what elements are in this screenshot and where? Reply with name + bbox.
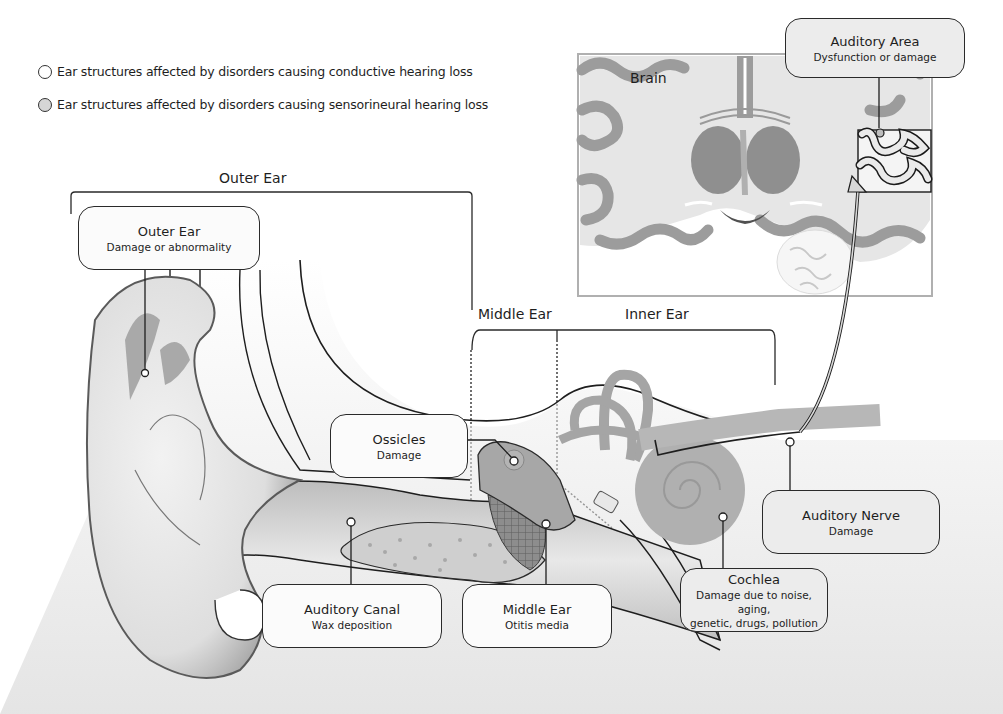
section-label-inner-ear: Inner Ear — [625, 306, 689, 322]
callout-title: Auditory Nerve — [802, 507, 900, 524]
callout-title: Auditory Area — [830, 33, 919, 50]
legend-item-sensorineural: Ear structures affected by disorders cau… — [38, 97, 488, 112]
section-label-middle-ear: Middle Ear — [478, 306, 552, 322]
callout-middle-ear: Middle Ear Otitis media — [462, 584, 612, 648]
callout-auditory-area: Auditory Area Dysfunction or damage — [785, 18, 965, 78]
brain-label: Brain — [630, 70, 667, 86]
callout-auditory-nerve: Auditory Nerve Damage — [762, 490, 940, 554]
legend-label-conductive: Ear structures affected by disorders cau… — [57, 64, 473, 79]
callout-title: Outer Ear — [138, 223, 201, 240]
callout-subtitle-line2: genetic, drugs, pollution — [690, 616, 818, 630]
conductive-swatch-icon — [38, 65, 52, 79]
callout-ossicles: Ossicles Damage — [330, 414, 468, 478]
callout-subtitle-line1: Damage due to noise, aging, — [681, 588, 827, 616]
callout-title: Auditory Canal — [304, 601, 400, 618]
legend-item-conductive: Ear structures affected by disorders cau… — [38, 64, 473, 79]
callout-title: Ossicles — [373, 431, 426, 448]
section-label-outer-ear: Outer Ear — [219, 170, 286, 186]
callout-subtitle: Damage — [829, 524, 873, 538]
callout-subtitle: Damage — [377, 448, 421, 462]
callout-subtitle: Dysfunction or damage — [814, 50, 937, 64]
auditory-area-inset — [858, 129, 931, 192]
cerebellum — [777, 230, 853, 294]
callout-title: Middle Ear — [503, 601, 572, 618]
callout-subtitle: Otitis media — [505, 618, 569, 632]
callout-outer-ear: Outer Ear Damage or abnormality — [78, 206, 260, 270]
legend-label-sensorineural: Ear structures affected by disorders cau… — [57, 97, 488, 112]
sensorineural-swatch-icon — [38, 98, 52, 112]
callout-auditory-canal: Auditory Canal Wax deposition — [262, 584, 442, 648]
callout-subtitle: Wax deposition — [312, 618, 392, 632]
callout-cochlea: Cochlea Damage due to noise, aging, gene… — [680, 568, 828, 632]
callout-subtitle: Damage or abnormality — [107, 240, 232, 254]
callout-title: Cochlea — [728, 571, 780, 588]
